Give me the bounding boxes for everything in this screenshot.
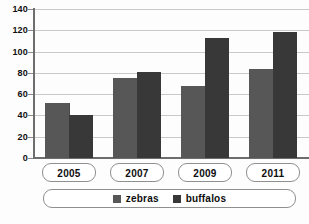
category-label-2009: 2009 xyxy=(178,163,232,182)
plot-area: 020406080100120140 xyxy=(0,0,309,168)
category-label-2005: 2005 xyxy=(42,163,96,182)
legend-item-zebras: zebras xyxy=(113,193,159,204)
bar-zebras-2007 xyxy=(113,78,138,158)
category-labels: 2005200720092011 xyxy=(33,163,309,185)
bar-buffalos-2007 xyxy=(137,72,161,158)
bar-zebras-2009 xyxy=(181,86,206,158)
legend-swatch-buffalos-icon xyxy=(173,195,181,203)
legend-item-buffalos: buffalos xyxy=(173,193,227,204)
bar-buffalos-2011 xyxy=(273,32,297,158)
bar-chart: 020406080100120140 2005200720092011 zebr… xyxy=(0,0,309,224)
legend-swatch-zebras-icon xyxy=(113,195,121,203)
bar-zebras-2005 xyxy=(45,103,70,158)
bar-buffalos-2005 xyxy=(69,115,93,158)
bar-zebras-2011 xyxy=(249,69,274,158)
legend-label-zebras: zebras xyxy=(126,193,159,204)
bars-layer xyxy=(0,0,309,168)
category-label-2007: 2007 xyxy=(110,163,164,182)
bar-buffalos-2009 xyxy=(205,38,229,158)
legend-label-buffalos: buffalos xyxy=(186,193,227,204)
category-label-2011: 2011 xyxy=(246,163,300,182)
chart-legend: zebras buffalos xyxy=(43,189,296,208)
